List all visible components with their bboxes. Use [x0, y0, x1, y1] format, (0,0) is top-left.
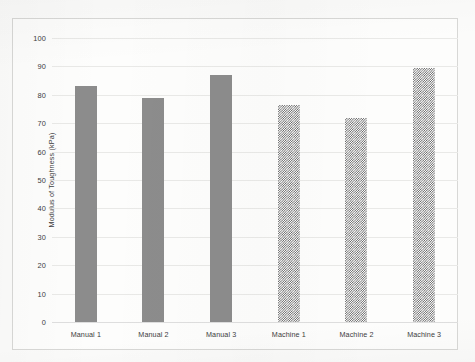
y-tick-label-100: 100 [12, 34, 46, 43]
bar-machine-1 [278, 105, 300, 322]
bar-manual-1 [75, 86, 97, 322]
x-tick-label-machine-2: Machine 2 [322, 330, 392, 339]
y-tick-label-10: 10 [12, 289, 46, 298]
y-tick-label-90: 90 [12, 62, 46, 71]
gridline-0 [52, 322, 458, 323]
bar-manual-2 [142, 98, 164, 322]
y-tick-label-60: 60 [12, 147, 46, 156]
bar-machine-2 [345, 118, 367, 322]
y-tick-label-20: 20 [12, 261, 46, 270]
x-tick-label-manual-1: Manual 1 [51, 330, 121, 339]
y-tick-label-50: 50 [12, 176, 46, 185]
bar-manual-3 [210, 75, 232, 322]
y-tick-label-70: 70 [12, 119, 46, 128]
y-tick-label-40: 40 [12, 204, 46, 213]
bar-slot [255, 38, 323, 322]
y-tick-label-30: 30 [12, 232, 46, 241]
bar-slot [120, 38, 188, 322]
bar-slot [390, 38, 458, 322]
y-tick-label-80: 80 [12, 90, 46, 99]
bar-slot [323, 38, 391, 322]
x-tick-label-machine-3: Machine 3 [389, 330, 459, 339]
x-tick-label-manual-3: Manual 3 [186, 330, 256, 339]
y-tick-label-0: 0 [12, 318, 46, 327]
bar-slot [52, 38, 120, 322]
bar-slot [187, 38, 255, 322]
y-axis-tick-labels: 1009080706050403020100 [8, 38, 46, 322]
x-tick-label-manual-2: Manual 2 [119, 330, 189, 339]
bar-series [52, 38, 458, 322]
bar-machine-3 [413, 68, 435, 322]
x-tick-label-machine-1: Machine 1 [254, 330, 324, 339]
plot-area [52, 38, 458, 322]
